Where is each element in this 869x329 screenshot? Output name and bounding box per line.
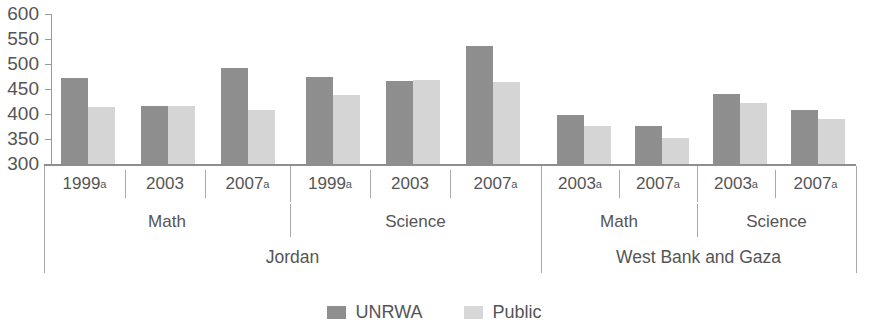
- legend: UNRWA Public: [0, 298, 869, 326]
- year-label-wbg-science-2007: 2007a: [775, 166, 856, 202]
- bar-public: [168, 106, 195, 165]
- legend-label-unrwa: UNRWA: [355, 302, 422, 323]
- bar-public: [493, 82, 520, 165]
- bar-unrwa: [557, 115, 584, 165]
- y-tick-label-550: 550: [7, 29, 39, 48]
- bar-public: [248, 110, 275, 165]
- year-label-jordan-science-2007: 2007a: [450, 166, 541, 202]
- category-axis: 1999a 2003 2007a 1999a 2003 2007a 2003a …: [0, 166, 869, 286]
- y-tick-label-600: 600: [7, 4, 39, 23]
- subject-label-jordan-math: Math: [44, 202, 290, 241]
- y-tick-mark-450: [45, 89, 52, 90]
- subject-row: Math Science Math Science: [0, 202, 869, 241]
- y-tick-label-500: 500: [7, 54, 39, 73]
- subject-label-wbg-math: Math: [541, 202, 697, 241]
- country-label-jordan: Jordan: [44, 241, 541, 273]
- bar-public: [818, 119, 845, 165]
- y-tick-mark-400: [45, 114, 52, 115]
- bar-public: [740, 103, 767, 165]
- legend-swatch-icon-unrwa: [327, 306, 346, 319]
- year-row: 1999a 2003 2007a 1999a 2003 2007a 2003a …: [0, 166, 869, 202]
- bar-chart: 600 550 500 450 400 350 300: [0, 0, 869, 329]
- y-tick-label-350: 350: [7, 129, 39, 148]
- legend-swatch-icon-public: [464, 306, 483, 319]
- bar-unrwa: [221, 68, 248, 165]
- bar-unrwa: [386, 81, 413, 165]
- y-axis: 600 550 500 450 400 350 300: [0, 0, 42, 175]
- year-label-wbg-math-2003: 2003a: [541, 166, 619, 202]
- bar-public: [413, 80, 440, 165]
- year-label-wbg-science-2003: 2003a: [697, 166, 775, 202]
- legend-item-public: Public: [464, 302, 541, 323]
- year-label-wbg-math-2007: 2007a: [619, 166, 697, 202]
- bar-public: [584, 126, 611, 165]
- bar-unrwa: [466, 46, 493, 165]
- year-label-jordan-science-2003: 2003: [370, 166, 450, 202]
- plot-area: [52, 14, 869, 165]
- year-label-jordan-science-1999: 1999a: [290, 166, 370, 202]
- subject-label-jordan-science: Science: [290, 202, 541, 241]
- y-tick-mark-600: [45, 14, 52, 15]
- year-label-jordan-math-1999: 1999a: [44, 166, 125, 202]
- y-tick-mark-350: [45, 139, 52, 140]
- bar-public: [88, 107, 115, 165]
- year-label-jordan-math-2003: 2003: [125, 166, 205, 202]
- country-label-west-bank-and-gaza: West Bank and Gaza: [541, 241, 856, 273]
- country-row: Jordan West Bank and Gaza: [0, 241, 869, 281]
- bar-unrwa: [713, 94, 740, 165]
- year-label-jordan-math-2007: 2007a: [205, 166, 290, 202]
- y-tick-mark-550: [45, 39, 52, 40]
- legend-label-public: Public: [492, 302, 541, 323]
- bar-public: [333, 95, 360, 165]
- y-tick-label-450: 450: [7, 79, 39, 98]
- bar-unrwa: [635, 126, 662, 165]
- bar-public: [662, 138, 689, 165]
- subject-label-wbg-science: Science: [697, 202, 856, 241]
- legend-item-unrwa: UNRWA: [327, 302, 422, 323]
- bar-unrwa: [791, 110, 818, 165]
- bar-unrwa: [306, 77, 333, 165]
- bar-unrwa: [141, 106, 168, 165]
- y-tick-label-400: 400: [7, 104, 39, 123]
- y-tick-mark-500: [45, 64, 52, 65]
- bar-unrwa: [61, 78, 88, 165]
